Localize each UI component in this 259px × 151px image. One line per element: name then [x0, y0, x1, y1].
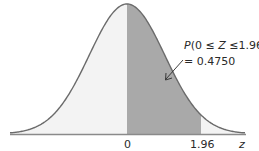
- chart-svg: P(0 ≤ Z ≤1.96) = 0.4750 0 1.96 z: [0, 0, 259, 151]
- normal-distribution-chart: P(0 ≤ Z ≤1.96) = 0.4750 0 1.96 z: [0, 0, 259, 151]
- tick-label-zero: 0: [124, 138, 131, 151]
- axis-label-z: z: [238, 138, 245, 151]
- tick-label-1-96: 1.96: [190, 138, 215, 151]
- annotation-probability-value: = 0.4750: [184, 55, 235, 68]
- annotation-probability-label: P(0 ≤ Z ≤1.96): [184, 39, 259, 52]
